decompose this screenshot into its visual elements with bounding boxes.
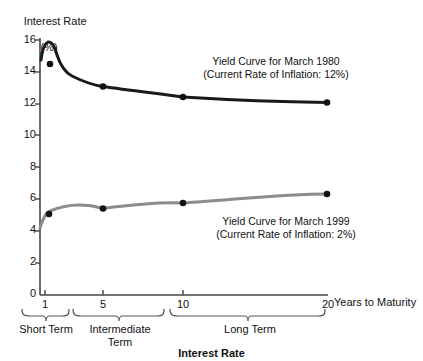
- data-point-1980-20: [324, 99, 331, 106]
- annotation-1980-line2: (Current Rate of Inflation: 12%): [176, 68, 376, 81]
- group-label-short-term-line1: Short Term: [8, 323, 84, 336]
- data-point-1999-5: [100, 205, 107, 212]
- bottom-caption: Interest Rate: [0, 347, 423, 359]
- group-label-short-term: Short Term: [8, 323, 84, 336]
- annotation-1999-line1: Yield Curve for March 1999: [186, 215, 386, 228]
- data-point-1980-10: [180, 94, 187, 101]
- bracket-intermediate-term: [73, 309, 164, 321]
- bracket-short-term: [22, 309, 69, 321]
- data-point-1999-1: [46, 211, 53, 218]
- data-point-1980-1: [47, 61, 54, 68]
- data-point-1999-10: [180, 200, 187, 207]
- maturity-brackets: [22, 309, 325, 321]
- data-point-1980-5: [100, 83, 107, 90]
- bracket-long-term: [170, 309, 325, 321]
- data-point-1999-20: [324, 191, 331, 198]
- annotation-1980-line1: Yield Curve for March 1980: [176, 55, 376, 68]
- group-label-long-term: Long Term: [205, 323, 295, 336]
- group-label-long-term-line1: Long Term: [205, 323, 295, 336]
- annotation-1999-line2: (Current Rate of Inflation: 2%): [186, 228, 386, 241]
- yield-curve-chart: Interest Rate (%) 16 14 12 10 8 6 4 2 0 …: [0, 0, 423, 361]
- annotation-1999: Yield Curve for March 1999 (Current Rate…: [186, 215, 386, 240]
- group-label-intermediate-term-line1: Intermediate: [75, 323, 165, 336]
- annotation-1980: Yield Curve for March 1980 (Current Rate…: [176, 55, 376, 80]
- group-label-intermediate-term: Intermediate Term: [75, 323, 165, 348]
